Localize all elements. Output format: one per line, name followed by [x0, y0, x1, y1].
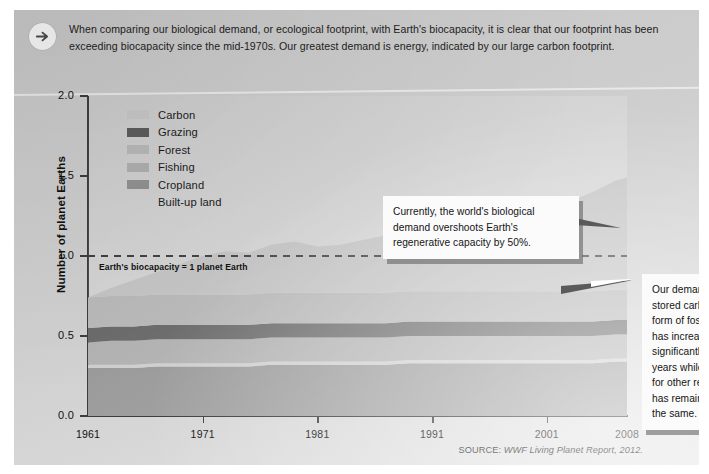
x-tick	[432, 416, 434, 423]
callout-overshoot: Currently, the world's biological demand…	[383, 196, 579, 259]
legend-item-cropland: Cropland	[127, 176, 222, 194]
legend-item-fishing: Fishing	[127, 159, 222, 177]
legend-swatch-built-up-land	[127, 198, 149, 207]
x-tick-label: 2008	[615, 428, 639, 440]
y-tick	[80, 415, 88, 417]
legend-label: Built-up land	[158, 196, 222, 208]
y-tick-label: 2.0	[34, 89, 74, 101]
legend-swatch-forest	[127, 145, 149, 154]
x-tick-label: 1991	[420, 428, 444, 440]
x-tick	[547, 416, 549, 423]
legend-swatch-grazing	[127, 128, 149, 137]
figure-page: When comparing our biological demand, or…	[0, 0, 709, 474]
legend-item-forest: Forest	[127, 141, 222, 159]
x-tick	[317, 416, 319, 423]
legend-label: Forest	[158, 144, 190, 156]
legend-label: Carbon	[158, 109, 195, 121]
source-note: SOURCE: WWF Living Planet Report, 2012.	[14, 445, 643, 455]
x-tick	[203, 416, 205, 423]
figure-panel: When comparing our biological demand, or…	[14, 10, 699, 465]
y-tick	[80, 95, 88, 97]
callout-carbon: Our demand on stored carbon in the form …	[642, 274, 699, 430]
legend-label: Grazing	[158, 126, 198, 138]
x-tick-label: 1971	[191, 428, 215, 440]
x-tick-label: 1981	[305, 428, 329, 440]
biocapacity-line-label: Earth's biocapacity = 1 planet Earth	[99, 262, 248, 272]
x-tick-label: 2001	[535, 428, 559, 440]
y-tick-label: 0.5	[34, 329, 74, 341]
source-title: WWF Living Planet Report,	[504, 445, 617, 455]
legend-label: Cropland	[158, 179, 204, 191]
y-tick-label: 1.0	[34, 249, 74, 261]
chart-area: Number of planet Earths 0.00.51.01.52.01…	[61, 88, 631, 418]
legend-item-carbon: Carbon	[127, 106, 222, 124]
legend-swatch-cropland	[127, 180, 149, 189]
legend-item-built-up-land: Built-up land	[127, 194, 222, 212]
y-tick-label: 1.5	[34, 169, 74, 181]
chart-legend: CarbonGrazingForestFishingCroplandBuilt-…	[127, 106, 222, 211]
arrow-right-circle-icon	[29, 23, 56, 50]
source-year: 2012.	[620, 445, 644, 455]
header-callout: When comparing our biological demand, or…	[14, 10, 699, 70]
y-tick	[80, 175, 88, 177]
y-tick	[80, 335, 88, 337]
legend-label: Fishing	[158, 161, 195, 173]
y-tick-label: 0.0	[34, 409, 74, 421]
x-tick-label: 1961	[76, 428, 100, 440]
source-label: SOURCE:	[458, 445, 501, 455]
legend-swatch-fishing	[127, 163, 149, 172]
header-text: When comparing our biological demand, or…	[69, 21, 683, 54]
y-tick	[80, 255, 88, 257]
legend-item-grazing: Grazing	[127, 124, 222, 142]
legend-swatch-carbon	[127, 110, 149, 119]
